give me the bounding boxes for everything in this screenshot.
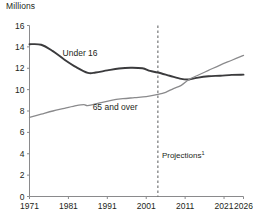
x-tick-2026: 2026	[234, 201, 253, 211]
series-label-65-and-over: 65 and over	[93, 102, 138, 112]
chart-plot-area: 0246810121416 19711981199120012011202120…	[0, 0, 253, 219]
y-tick-2: 2	[20, 170, 25, 180]
y-tick-14: 14	[15, 42, 25, 52]
population-line-chart: Millions 0246810121416 19711981199120012…	[0, 0, 253, 219]
y-tick-8: 8	[20, 106, 25, 116]
series-label-under-16: Under 16	[63, 48, 98, 58]
x-tick-2001: 2001	[137, 201, 156, 211]
y-tick-16: 16	[15, 21, 25, 31]
series-line-under-16	[30, 44, 244, 79]
annotation-projections: Projections1	[162, 150, 205, 160]
x-tick-2011: 2011	[176, 201, 195, 211]
y-axis-tick-labels: 0246810121416	[15, 21, 25, 202]
y-tick-6: 6	[20, 127, 25, 137]
x-tick-1981: 1981	[59, 201, 78, 211]
chart-annotations: Projections1	[162, 150, 205, 160]
x-tick-2021: 2021	[215, 201, 234, 211]
y-tick-4: 4	[20, 149, 25, 159]
y-tick-12: 12	[15, 63, 25, 73]
x-axis-tick-labels: 1971198119912001201120212026	[20, 201, 253, 211]
series-inline-labels: Under 1665 and over	[63, 48, 138, 111]
axis-tick-marks	[27, 26, 244, 200]
x-tick-1991: 1991	[98, 201, 117, 211]
x-tick-1971: 1971	[20, 201, 39, 211]
y-tick-10: 10	[15, 85, 25, 95]
